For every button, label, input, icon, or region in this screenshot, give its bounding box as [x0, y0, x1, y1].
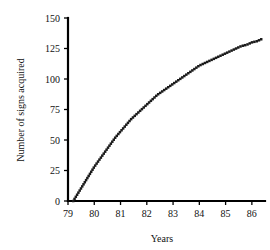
- series-data-dot: [219, 55, 222, 58]
- series-data-dot: [215, 57, 218, 60]
- series-data-dot: [237, 46, 240, 49]
- series-data-dot: [201, 63, 204, 65]
- x-tick-label: 84: [194, 208, 204, 219]
- series-data-dot: [251, 41, 254, 44]
- series-data-dot: [206, 61, 209, 64]
- x-tick-label: 83: [168, 208, 178, 219]
- series-data-dot: [217, 56, 220, 59]
- x-axis-ticks: 7980818283848586: [63, 201, 257, 219]
- series-data-dot: [210, 59, 213, 62]
- series-data-dot: [235, 47, 238, 50]
- series-data-dot: [226, 51, 229, 54]
- y-axis-ticks: 0255075100125150: [45, 13, 68, 207]
- series-data-dot: [242, 44, 245, 47]
- y-tick-label: 0: [55, 196, 60, 207]
- y-tick-label: 75: [50, 104, 60, 115]
- y-tick-label: 125: [45, 43, 60, 54]
- series-data-dot: [255, 40, 257, 43]
- series-data-dot: [224, 52, 227, 55]
- series-data-dot: [228, 50, 231, 53]
- x-tick-label: 80: [89, 208, 99, 219]
- y-axis-title: Number of signs acquired: [15, 58, 26, 162]
- y-tick-label: 150: [45, 13, 60, 24]
- series-data-dot: [197, 65, 200, 68]
- x-tick-label: 86: [247, 208, 257, 219]
- x-tick-label: 79: [63, 208, 73, 219]
- x-axis-title: Years: [151, 233, 173, 244]
- x-tick-label: 81: [116, 208, 126, 219]
- series-data-dot: [233, 48, 236, 51]
- series-data-dot: [246, 43, 249, 46]
- series-data-dot: [244, 44, 247, 47]
- series-data-dot: [253, 41, 256, 44]
- series-data-dot: [204, 62, 207, 64]
- series-data-dot: [248, 42, 251, 45]
- data-series-dotted-curve: [72, 38, 262, 202]
- series-data-dot: [239, 45, 242, 48]
- series-data-dot: [260, 38, 263, 41]
- y-tick-label: 25: [50, 165, 60, 176]
- x-tick-label: 82: [142, 208, 152, 219]
- x-tick-label: 85: [221, 208, 231, 219]
- series-data-dot: [199, 64, 202, 67]
- y-tick-label: 100: [45, 74, 60, 85]
- series-data-dot: [208, 60, 211, 63]
- series-data-dot: [213, 58, 216, 61]
- series-data-dot: [258, 39, 261, 42]
- chart-figure: Number of signs acquired Years 025507510…: [0, 0, 270, 250]
- series-data-dot: [221, 53, 224, 56]
- series-data-dot: [230, 49, 233, 52]
- chart-canvas: Number of signs acquired Years 025507510…: [0, 0, 270, 250]
- y-tick-label: 50: [50, 135, 60, 146]
